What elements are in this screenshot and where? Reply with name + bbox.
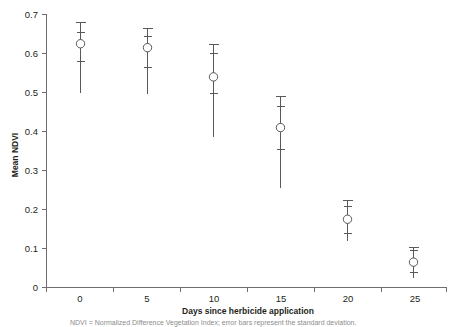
y-axis-ticks bbox=[42, 15, 47, 288]
data-point-group bbox=[343, 200, 353, 241]
data-point-marker bbox=[209, 73, 217, 81]
y-tick-label-4: 0.4 bbox=[25, 126, 38, 137]
x-axis-ticks bbox=[47, 288, 447, 293]
data-series-layer bbox=[76, 22, 419, 277]
y-tick-label-2: 0.2 bbox=[25, 204, 38, 215]
data-point-group bbox=[276, 96, 286, 188]
x-tick-label-0: 0 bbox=[77, 293, 82, 304]
y-tick-label-0: 0 bbox=[33, 282, 38, 293]
x-tick-label-5: 25 bbox=[410, 293, 421, 304]
data-point-group bbox=[409, 247, 419, 278]
y-axis-title: Mean NDVI bbox=[10, 133, 20, 177]
data-point-group bbox=[209, 44, 219, 138]
y-tick-label-1: 0.1 bbox=[25, 243, 38, 254]
data-point-marker bbox=[343, 215, 351, 223]
x-tick-label-3: 15 bbox=[276, 293, 287, 304]
x-tick-label-1: 5 bbox=[144, 293, 149, 304]
figure-caption: NDVI = Normalized Difference Vegetation … bbox=[70, 318, 450, 327]
y-tick-label-7: 0.7 bbox=[25, 9, 38, 20]
y-tick-label-3: 0.3 bbox=[25, 165, 38, 176]
y-tick-label-5: 0.5 bbox=[25, 87, 38, 98]
data-point-group bbox=[143, 28, 153, 94]
figure-container: 0 0.1 0.2 0.3 0.4 0.5 0.6 0.7 0 5 10 15 … bbox=[0, 0, 459, 327]
x-axis-title: Days since herbicide application bbox=[182, 306, 314, 316]
data-point-marker bbox=[76, 40, 84, 48]
data-point-group bbox=[76, 22, 86, 92]
data-point-marker bbox=[409, 258, 417, 266]
x-tick-label-4: 20 bbox=[343, 293, 354, 304]
data-point-marker bbox=[143, 43, 151, 51]
data-point-marker bbox=[276, 123, 284, 131]
ndvi-scatter-chart: 0 0.1 0.2 0.3 0.4 0.5 0.6 0.7 0 5 10 15 … bbox=[0, 0, 459, 327]
x-tick-label-2: 10 bbox=[209, 293, 220, 304]
y-tick-label-6: 0.6 bbox=[25, 48, 38, 59]
